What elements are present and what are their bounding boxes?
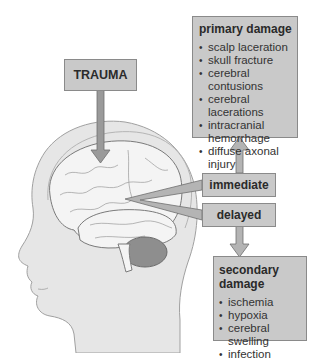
secondary-damage-box: secondary damage ischemia hypoxia cerebr… xyxy=(213,256,307,341)
trauma-box: TRAUMA xyxy=(64,59,137,91)
list-item: intracranial hemorrhage xyxy=(199,119,293,145)
list-item: scalp laceration xyxy=(199,41,293,54)
list-item: diffuse axonal injury xyxy=(199,145,293,171)
primary-damage-list: scalp laceration skull fracture cerebral… xyxy=(199,41,293,171)
immediate-label: immediate xyxy=(209,178,268,192)
list-item: hypoxia xyxy=(219,309,303,322)
delayed-box: delayed xyxy=(202,203,276,227)
list-item: cerebral lacerations xyxy=(199,93,293,119)
secondary-damage-list: ischemia hypoxia cerebral swelling infec… xyxy=(219,296,303,361)
list-item: ischemia xyxy=(219,296,303,309)
delayed-label: delayed xyxy=(217,208,262,222)
primary-damage-box: primary damage scalp laceration skull fr… xyxy=(192,16,298,138)
list-item: skull fracture xyxy=(199,54,293,67)
list-item: cerebral contusions xyxy=(199,67,293,93)
list-item: cerebral swelling xyxy=(219,322,303,348)
arrow-down-to-secondary xyxy=(230,226,249,257)
list-item: infection xyxy=(219,348,303,361)
immediate-box: immediate xyxy=(202,173,276,197)
primary-damage-title: primary damage xyxy=(199,22,293,36)
trauma-label: TRAUMA xyxy=(73,68,127,82)
secondary-damage-title: secondary damage xyxy=(219,263,303,291)
